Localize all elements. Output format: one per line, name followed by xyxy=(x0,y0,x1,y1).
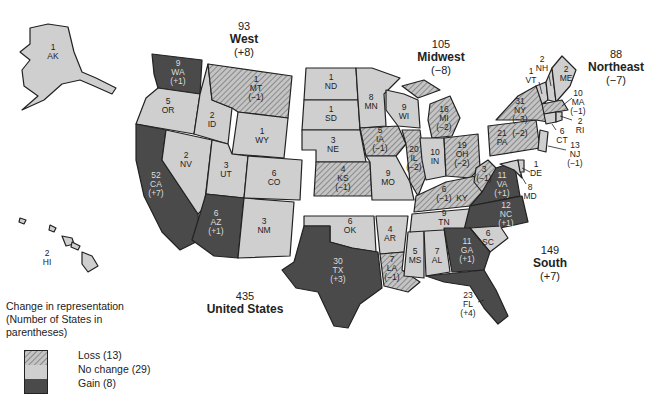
svg-text:23FL(+4): 23FL(+4) xyxy=(460,290,476,318)
swatch-gain xyxy=(25,379,47,393)
region-south-name: South xyxy=(520,257,580,270)
region-northeast-change: (−7) xyxy=(580,74,652,87)
state-AK xyxy=(20,24,116,110)
legend-swatches xyxy=(24,350,48,394)
region-south: 149 South (+7) xyxy=(520,244,580,283)
state-HI xyxy=(19,218,98,272)
swatch-loss xyxy=(25,351,47,365)
region-midwest-change: (−8) xyxy=(406,64,476,77)
svg-text:2RI: 2RI xyxy=(576,116,585,135)
region-west: 93 West (+8) xyxy=(214,20,274,59)
legend-title-line3: parentheses) xyxy=(6,326,124,339)
region-midwest-name: Midwest xyxy=(406,51,476,64)
legend-title-line2: (Number of States in xyxy=(6,313,124,326)
svg-text:8MD: 8MD xyxy=(523,182,536,201)
legend-title-line1: Change in representation xyxy=(6,300,124,313)
legend-items: Loss (13) No change (29) Gain (8) xyxy=(78,348,150,390)
svg-text:1VT: 1VT xyxy=(526,66,537,85)
region-united-states: 435 United States xyxy=(190,290,300,316)
svg-text:2NH: 2NH xyxy=(536,54,548,73)
legend-no-change: No change (29) xyxy=(78,362,150,376)
svg-text:2HI: 2HI xyxy=(43,248,52,267)
legend-gain: Gain (8) xyxy=(78,376,150,390)
legend-loss: Loss (13) xyxy=(78,348,150,362)
legend: Change in representation (Number of Stat… xyxy=(6,300,124,339)
svg-text:10MA(−1): 10MA(−1) xyxy=(570,88,586,116)
region-northeast-name: Northeast xyxy=(580,61,652,74)
svg-text:13NJ(−1): 13NJ(−1) xyxy=(567,140,583,168)
state-CT xyxy=(544,112,556,124)
region-northeast: 88 Northeast (−7) xyxy=(580,48,652,87)
state-RI xyxy=(556,112,562,122)
svg-text:1DE: 1DE xyxy=(530,159,542,178)
swatch-no-change xyxy=(25,365,47,379)
svg-text:10IN: 10IN xyxy=(430,147,440,166)
svg-text:6CT: 6CT xyxy=(556,126,567,145)
region-south-change: (+7) xyxy=(520,270,580,283)
us-name: United States xyxy=(190,303,300,316)
region-west-change: (+8) xyxy=(214,46,274,59)
region-midwest: 105 Midwest (−8) xyxy=(406,38,476,77)
region-west-name: West xyxy=(214,33,274,46)
state-NJ xyxy=(538,130,548,152)
